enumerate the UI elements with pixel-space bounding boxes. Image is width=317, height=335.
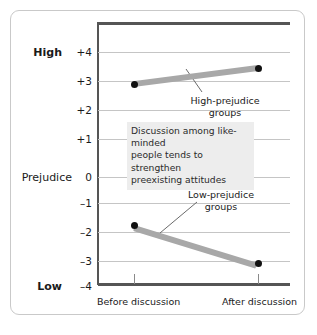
- callout-high-line2: groups: [182, 107, 268, 119]
- callout-low-line1: Low-prejudice: [178, 189, 264, 201]
- data-point-high-before: [131, 81, 138, 88]
- y-tick-label-4: +4: [72, 47, 92, 57]
- callout-high-line1: High-prejudice: [182, 95, 268, 107]
- callout-low-line2: groups: [178, 201, 264, 213]
- y-axis-title-text: Prejudice: [22, 171, 72, 184]
- annotation-line-1: Discussion among like-minded: [131, 125, 250, 149]
- chart-figure: High +4 +3 +2 +1 0 –1 –2 –3 –4 Prejudice…: [0, 0, 317, 335]
- y-tick-label-3: +3: [72, 76, 92, 86]
- y-axis-low-text: Low: [37, 280, 62, 293]
- x-tick-label-before: Before discussion: [97, 296, 180, 307]
- y-tick-label-0: 0: [72, 172, 92, 182]
- y-tick-label-neg4: –4: [72, 281, 92, 291]
- y-axis-low-label: Low: [16, 281, 62, 292]
- y-tick-label-neg2: –2: [72, 227, 92, 237]
- y-tick-label-1: +1: [72, 134, 92, 144]
- annotation-line-2: people tends to strengthen: [131, 149, 250, 173]
- x-tick-label-after: After discussion: [222, 296, 297, 307]
- callout-high-prejudice: High-prejudice groups: [182, 95, 268, 119]
- y-tick-label-neg1: –1: [72, 198, 92, 208]
- data-point-high-after: [255, 65, 262, 72]
- annotation-box: Discussion among like-minded people tend…: [127, 122, 254, 190]
- data-point-low-before: [131, 222, 138, 229]
- callout-low-prejudice: Low-prejudice groups: [178, 189, 264, 213]
- y-axis-high-label: High: [16, 47, 62, 58]
- data-point-low-after: [255, 260, 262, 267]
- annotation-line-3: preexisting attitudes: [131, 174, 250, 186]
- y-axis-title: Prejudice: [8, 172, 72, 183]
- y-axis-high-text: High: [33, 46, 62, 59]
- y-tick-label-neg3: –3: [72, 256, 92, 266]
- y-tick-label-2: +2: [72, 105, 92, 115]
